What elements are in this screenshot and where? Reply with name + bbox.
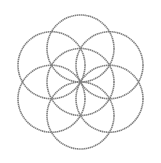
seed-of-life-figure: [0, 0, 161, 163]
seed-of-life-diagram: [0, 0, 161, 163]
circle-group: [18, 15, 143, 149]
